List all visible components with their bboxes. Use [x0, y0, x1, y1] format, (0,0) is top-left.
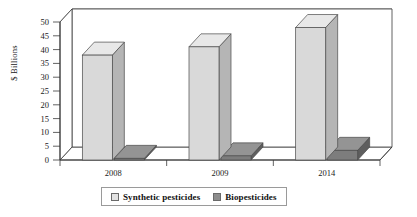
- y-tick-label-10: 10: [29, 128, 49, 136]
- y-tick-label-45: 45: [29, 32, 49, 40]
- legend-swatch-biopesticides: [213, 193, 221, 201]
- bar-synthetic-pesticides-2008: [82, 42, 124, 160]
- y-tick-marks-group: [53, 22, 60, 160]
- legend-item-biopesticides[interactable]: Biopesticides: [213, 192, 276, 202]
- y-tick-label-35: 35: [29, 59, 49, 67]
- legend-swatch-synthetic-pesticides: [111, 193, 119, 201]
- x-tick-label-2009: 2009: [190, 168, 250, 178]
- y-tick-label-20: 20: [29, 101, 49, 109]
- bar-chart: $ Billions 05101520253035404550 20082009…: [0, 0, 417, 217]
- y-tick-label-15: 15: [29, 115, 49, 123]
- legend-item-synthetic-pesticides[interactable]: Synthetic pesticides: [111, 192, 200, 202]
- x-tick-label-2008: 2008: [83, 168, 143, 178]
- bar-synthetic-pesticides-2014: [296, 15, 338, 160]
- chart-legend: Synthetic pesticides Biopesticides: [101, 187, 287, 206]
- y-tick-label-0: 0: [29, 156, 49, 164]
- y-tick-label-50: 50: [29, 18, 49, 26]
- legend-label-biopesticides: Biopesticides: [225, 192, 276, 202]
- y-tick-label-30: 30: [29, 73, 49, 81]
- x-tick-label-2014: 2014: [297, 168, 357, 178]
- y-tick-label-40: 40: [29, 46, 49, 54]
- plot-area: [0, 0, 417, 217]
- y-tick-label-25: 25: [29, 87, 49, 95]
- y-tick-label-5: 5: [29, 142, 49, 150]
- bar-synthetic-pesticides-2009: [189, 34, 231, 160]
- legend-label-synthetic-pesticides: Synthetic pesticides: [123, 192, 200, 202]
